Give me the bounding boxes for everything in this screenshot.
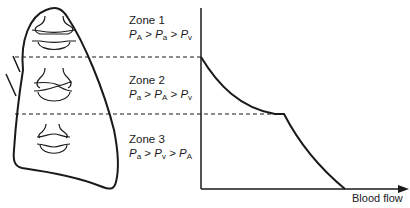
zone-1-p3: P [180,28,188,40]
zone3-alveolus-icon [37,124,70,153]
zone-3-label: Zone 3 Pa > Pv > PA [129,132,192,164]
zone-3-op1: > [144,147,151,159]
x-axis-label: Blood flow [352,192,403,204]
zone-3-title: Zone 3 [129,132,192,146]
zone-1-pressure-relation: PA > Pa > Pv [129,27,192,45]
zone-3-op2: > [169,147,176,159]
zone-1-p1-sub: A [137,33,142,42]
zone-2-op2: > [170,88,177,100]
zone-2-op1: > [144,88,151,100]
zone-3-p1: P [129,147,137,159]
zone-2-p1-sub: a [137,93,141,102]
zone-1-op1: > [145,28,152,40]
zone-1-p3-sub: v [188,33,192,42]
zone-2-p2: P [154,88,162,100]
zone-2-p3-sub: v [188,93,192,102]
zone-3-pressure-relation: Pa > Pv > PA [129,146,192,164]
zone-1-label: Zone 1 PA > Pa > Pv [129,13,192,45]
zone-2-label: Zone 2 Pa > PA > Pv [129,73,192,105]
blood-flow-curve [201,57,345,189]
zone-2-p2-sub: A [162,93,167,102]
lung-zones-diagram [0,0,410,208]
zone-1-p1: P [129,28,137,40]
bronchus-icon [6,56,20,96]
zone-1-title: Zone 1 [129,13,192,27]
zone-2-p3: P [180,88,188,100]
zone-3-p2-sub: v [162,152,166,161]
zone2-alveolus-icon [34,68,72,101]
zone-3-p3-sub: A [187,152,192,161]
zone-1-op2: > [170,28,177,40]
zone-2-pressure-relation: Pa > PA > Pv [129,87,192,105]
zone-1-p2-sub: a [163,33,167,42]
zone-2-p1: P [129,88,137,100]
zone-1-p2: P [155,28,163,40]
zone-3-p1-sub: a [137,152,141,161]
zone-3-p3: P [179,147,187,159]
zone-3-p2: P [154,147,162,159]
zone-2-title: Zone 2 [129,73,192,87]
